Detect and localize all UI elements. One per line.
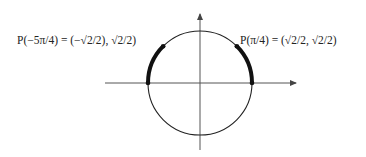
label-p-pi4: P(π/4) = (√2/2, √2/2)	[240, 34, 336, 46]
arc-0-to-pi4	[237, 46, 252, 83]
label-p-neg-5pi4: P(−5π/4) = (−√2/2), √2/2)	[17, 34, 136, 46]
point-3pi4	[161, 44, 166, 49]
arc-3pi4-to-pi	[148, 46, 163, 83]
point-0	[250, 81, 255, 86]
point-pi	[146, 81, 151, 86]
unit-circle-diagram	[0, 0, 366, 157]
point-pi4	[235, 44, 240, 49]
